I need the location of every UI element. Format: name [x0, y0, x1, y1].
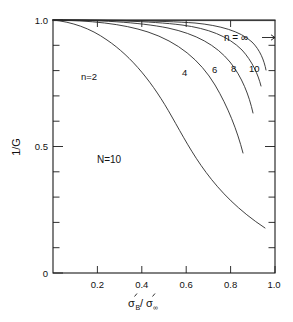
x-tick-labels: 0.2 0.4 0.6 0.8 1.0 [91, 279, 281, 290]
curve-labels: n=2 4 6 8 10 [81, 63, 260, 82]
curve-n-4 [53, 20, 243, 153]
y-tick-label-2: 0 [43, 268, 48, 279]
y-tick-labels: 1.0 0.5 0 [35, 15, 48, 279]
curve-label-6: 6 [212, 64, 217, 75]
x-axis-title: σ B / σ ∞ [128, 294, 158, 312]
big-n-label: N=10 [97, 154, 122, 165]
x-axis-slash: / [140, 297, 144, 309]
y-axis-title-text: 1/G [10, 138, 22, 156]
x-tick-label-3: 0.8 [224, 279, 237, 290]
x-tick-label-2: 0.6 [180, 279, 193, 290]
curve-n-2 [53, 20, 265, 228]
y-tick-label-1: 0.5 [35, 141, 48, 152]
y-tick-label-0: 1.0 [35, 15, 48, 26]
curve-label-8: 8 [231, 63, 236, 74]
curve-label-10: 10 [249, 63, 260, 74]
x-axis-sigma-denominator-sub: ∞ [153, 304, 158, 311]
x-axis-sigma-denominator: σ [146, 297, 153, 309]
n-infinity-annotation: n = ∞ [224, 32, 275, 43]
x-tick-label-1: 0.4 [135, 279, 148, 290]
x-axis-sigma-numerator: σ [128, 297, 135, 309]
plot-frame [53, 20, 275, 273]
parameter-annotation: N=10 [97, 154, 122, 165]
x-axis-ticks [97, 266, 275, 273]
x-tick-label-4: 1.0 [267, 279, 280, 290]
figure-container: n = ∞ n=2 4 6 8 10 N=10 0.2 0.4 0.6 0.8 … [0, 0, 293, 322]
y-axis-major-ticks [53, 20, 63, 273]
x-tick-label-0: 0.2 [91, 279, 104, 290]
n-infinity-label: n = ∞ [224, 32, 248, 43]
y-axis-right-ticks [265, 45, 275, 247]
line-chart: n = ∞ n=2 4 6 8 10 N=10 0.2 0.4 0.6 0.8 … [0, 0, 293, 322]
y-axis-title: 1/G [10, 138, 22, 156]
curve-label-n2: n=2 [81, 71, 97, 82]
curve-label-4: 4 [182, 67, 187, 78]
